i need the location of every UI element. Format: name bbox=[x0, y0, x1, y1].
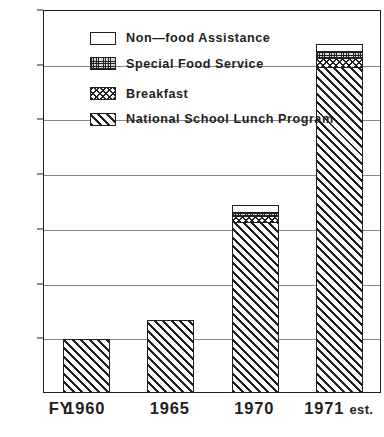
x-tick-year: 1965 bbox=[150, 399, 190, 417]
legend-swatch-crosshatch bbox=[90, 87, 116, 100]
x-tick-label-0: 1960 bbox=[65, 399, 105, 418]
bar-1960[interactable] bbox=[63, 339, 110, 392]
legend-item-special-food-service[interactable]: Special Food Service bbox=[90, 53, 380, 75]
chart-root: 100200300400500600700 Non—food Assistanc… bbox=[0, 0, 384, 437]
x-tick-year: 1960 bbox=[65, 399, 105, 417]
legend-label: Non—food Assistance bbox=[126, 31, 270, 45]
chart-legend: Non—food AssistanceSpecial Food ServiceB… bbox=[90, 27, 380, 134]
legend-item-non-food-assistance[interactable]: Non—food Assistance bbox=[90, 27, 380, 49]
legend-swatch-solid-white bbox=[90, 32, 116, 45]
x-tick-estimate-suffix: est. bbox=[350, 402, 374, 417]
legend-item-breakfast[interactable]: Breakfast bbox=[90, 83, 380, 105]
legend-label: National School Lunch Program bbox=[126, 112, 334, 126]
bar-segment-national-school-lunch-program[interactable] bbox=[148, 321, 193, 392]
x-tick-year: 1970 bbox=[234, 399, 274, 417]
legend-swatch-fine-stipple bbox=[90, 57, 116, 70]
legend-label: Special Food Service bbox=[126, 57, 264, 71]
x-tick-label-1: 1965 bbox=[150, 399, 190, 418]
plot-area: Non—food AssistanceSpecial Food ServiceB… bbox=[43, 10, 381, 393]
bar-segment-national-school-lunch-program[interactable] bbox=[233, 222, 278, 392]
bar-1970[interactable] bbox=[232, 205, 279, 392]
x-tick-label-2: 1970 bbox=[234, 399, 274, 418]
bar-segment-national-school-lunch-program[interactable] bbox=[64, 340, 109, 392]
legend-label: Breakfast bbox=[126, 87, 188, 101]
x-tick-year: 1971 bbox=[304, 399, 344, 417]
x-tick-label-3: 1971 est. bbox=[304, 399, 373, 418]
legend-swatch-diagonal-hatch bbox=[90, 113, 116, 126]
legend-item-national-school-lunch-program[interactable]: National School Lunch Program bbox=[90, 108, 380, 130]
bar-1965[interactable] bbox=[147, 320, 194, 392]
